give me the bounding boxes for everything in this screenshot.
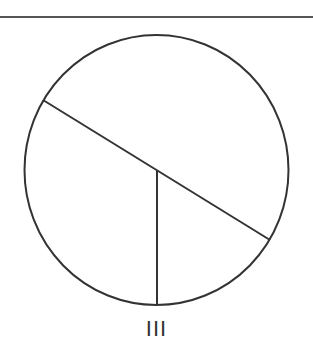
- circle-diagram: [0, 0, 313, 361]
- figure-label: III: [0, 316, 313, 342]
